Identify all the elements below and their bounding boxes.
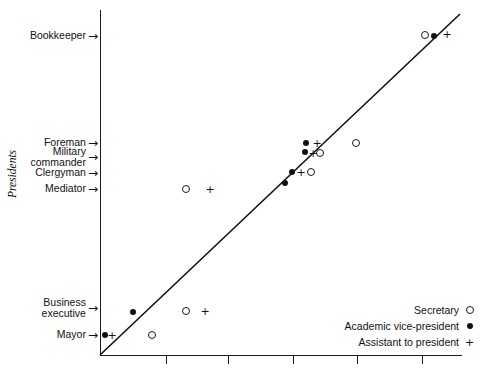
plus-marker: + — [108, 331, 117, 340]
plus-marker: + — [206, 185, 215, 194]
y-axis-label-arrow-icon: → — [88, 152, 98, 162]
y-axis-category-label: Bookkeeper→ — [0, 30, 98, 42]
y-axis-category-label: Mediator→ — [0, 183, 98, 195]
open-circle-marker — [148, 331, 156, 339]
filled-circle-marker — [130, 309, 136, 315]
y-axis-category-label-text: Clergyman — [35, 167, 86, 179]
y-axis-category-label-text: Mediator — [45, 183, 86, 195]
filled-circle-marker — [289, 169, 295, 175]
open-circle-marker — [421, 31, 429, 39]
y-axis-category-label-text: Military commander — [30, 146, 85, 169]
y-axis-category-label: Military commander→ — [0, 146, 98, 168]
filled-circle-marker — [282, 180, 288, 186]
legend-item-symbol: + — [465, 338, 474, 347]
plus-marker: + — [201, 307, 210, 316]
filled-circle-marker — [467, 323, 473, 329]
legend-item-label: Secretary — [414, 304, 459, 316]
legend-item: Assistant to president+ — [254, 335, 474, 349]
x-axis-tick — [357, 356, 358, 364]
filled-circle-marker — [431, 33, 437, 39]
x-axis-tick — [422, 356, 423, 364]
y-axis-category-label-text: Bookkeeper — [30, 30, 86, 42]
open-circle-marker — [466, 306, 474, 314]
y-axis-label-arrow-icon: → — [88, 168, 98, 178]
x-axis-tick — [293, 356, 294, 364]
y-axis-category-label-text: Mayor — [57, 329, 86, 341]
open-circle-marker — [307, 168, 315, 176]
open-circle-marker — [352, 139, 360, 147]
plus-marker: + — [297, 168, 306, 177]
legend-item-label: Academic vice-president — [345, 320, 459, 332]
x-axis-tick — [166, 356, 167, 364]
open-circle-marker — [182, 185, 190, 193]
y-axis-category-label-text: Business executive — [42, 297, 86, 320]
legend-item-symbol — [465, 323, 474, 329]
y-axis-line — [100, 10, 101, 356]
plus-marker: + — [443, 30, 452, 39]
legend-item-symbol — [465, 306, 474, 314]
open-circle-marker — [182, 307, 190, 315]
plus-marker: + — [313, 139, 322, 148]
legend-item-label: Assistant to president — [359, 336, 459, 348]
y-axis-category-label: Mayor→ — [0, 329, 98, 341]
filled-circle-marker — [302, 149, 308, 155]
y-axis-label-arrow-icon: → — [88, 330, 98, 340]
scatter-plot-figure: Presidents Bookkeeper→Foreman→Military c… — [0, 0, 482, 370]
legend-item: Academic vice-president — [254, 319, 474, 333]
y-axis-label-arrow-icon: → — [88, 184, 98, 194]
plus-marker: + — [465, 338, 474, 347]
x-axis-line — [100, 355, 462, 356]
plus-marker: + — [309, 149, 318, 158]
y-axis-category-label: Clergyman→ — [0, 167, 98, 179]
legend: SecretaryAcademic vice-presidentAssistan… — [254, 303, 474, 351]
legend-item: Secretary — [254, 303, 474, 317]
filled-circle-marker — [303, 140, 309, 146]
cropped-caption-text — [6, 0, 476, 3]
y-axis-category-label: Business executive→ — [0, 297, 98, 319]
y-axis-label-arrow-icon: → — [88, 31, 98, 41]
y-axis-label-arrow-icon: → — [88, 303, 98, 313]
x-axis-tick — [228, 356, 229, 364]
